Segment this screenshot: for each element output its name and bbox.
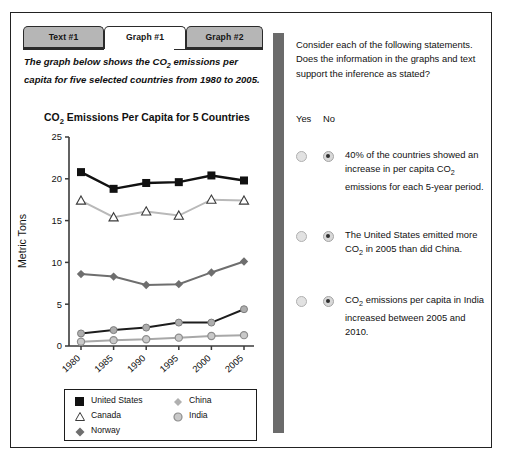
statement-text-3: CO2 emissions per capita in India increa…	[345, 293, 489, 339]
stimulus-intro-text: The graph below shows the CO2 emissions …	[24, 55, 268, 88]
data-point-marker	[175, 319, 182, 326]
data-point-marker	[77, 270, 85, 278]
data-point-marker	[109, 272, 117, 280]
data-point-marker	[240, 257, 248, 265]
chart-axes	[69, 137, 254, 346]
data-point-marker	[77, 168, 85, 176]
statement-1-part-b: emissions for each 5-year period.	[345, 181, 484, 192]
data-point-marker	[207, 268, 215, 276]
chart-svg: 0510152025 198019851990199520002005 Metr…	[11, 123, 273, 373]
data-point-marker	[110, 337, 117, 344]
data-point-marker	[143, 336, 150, 343]
y-tick-label: 0	[57, 340, 62, 351]
data-point-marker	[175, 334, 182, 341]
statement-text-2: The United States emitted more CO2 in 20…	[345, 228, 489, 260]
stimulus-pane: Text #1 Graph #1 Graph #2 The graph belo…	[11, 13, 273, 449]
chart-title-part-b: Emissions Per Capita for 5 Countries	[64, 112, 250, 123]
radio-no-statement-1[interactable]	[323, 151, 334, 162]
y-axis-ticks: 0510152025	[52, 131, 69, 351]
question-instructions: Consider each of the following statement…	[296, 38, 486, 81]
legend-label-india: India	[189, 410, 208, 420]
y-tick-label: 25	[52, 131, 62, 142]
series-line-united-states	[81, 172, 244, 189]
y-tick-label: 15	[52, 215, 62, 226]
exam-question-frame: Text #1 Graph #1 Graph #2 The graph belo…	[10, 12, 492, 448]
open-triangle-icon	[75, 412, 85, 420]
radio-yes-statement-2[interactable]	[296, 231, 307, 242]
statement-3-part-a: CO	[345, 294, 359, 305]
series-line-china	[81, 309, 244, 333]
tab-graph-1[interactable]: Graph #1	[104, 26, 186, 49]
radio-no-statement-3[interactable]	[323, 296, 334, 307]
data-point-marker	[110, 327, 117, 334]
tab-graph-2[interactable]: Graph #2	[186, 26, 263, 47]
x-tick-label: 2000	[190, 352, 213, 373]
chart-legend: United States Canada Norway	[64, 389, 257, 441]
tab-text-1[interactable]: Text #1	[23, 26, 104, 47]
intro-line2: capita for five selected countries from …	[24, 74, 260, 85]
chart-title-part-a: CO	[44, 112, 60, 123]
chart-series	[76, 168, 248, 345]
series-line-canada	[81, 200, 244, 218]
statement-text-1: 40% of the countries showed an increase …	[345, 148, 489, 194]
x-axis-ticks: 198019851990199520002005	[59, 346, 245, 373]
data-point-marker	[142, 281, 150, 289]
y-tick-label: 5	[57, 299, 62, 310]
statement-3-part-b: emissions per capita in India increased …	[345, 294, 484, 337]
legend-label-norway: Norway	[91, 425, 120, 435]
radio-yes-statement-1[interactable]	[296, 151, 307, 162]
no-column-label: No	[323, 113, 335, 124]
data-point-marker	[110, 185, 118, 193]
radio-yes-statement-3[interactable]	[296, 296, 307, 307]
data-point-marker	[142, 179, 150, 187]
y-axis-title: Metric Tons	[16, 214, 28, 268]
y-tick-label: 20	[52, 173, 62, 184]
intro-line1-part-b: emissions per	[171, 56, 238, 67]
yes-column-label: Yes	[296, 113, 311, 124]
filled-square-icon	[75, 397, 84, 406]
radio-no-statement-2[interactable]	[323, 231, 334, 242]
x-tick-label: 2005	[222, 352, 245, 373]
data-point-marker	[175, 280, 183, 288]
data-point-marker	[76, 196, 85, 204]
china-marker-icon	[173, 397, 182, 406]
data-point-marker	[78, 330, 85, 337]
statement-2-part-b: in 2005 than did China.	[363, 243, 462, 254]
filled-diamond-icon	[75, 427, 84, 436]
question-pane: Consider each of the following statement…	[292, 13, 493, 449]
x-tick-label: 1995	[157, 352, 180, 373]
data-point-marker	[207, 171, 215, 179]
x-tick-label: 1980	[59, 352, 82, 373]
data-point-marker	[208, 319, 215, 326]
data-point-marker	[241, 306, 248, 313]
statement-1-subscript: 2	[451, 168, 455, 177]
intro-line1-part-a: The graph below shows the CO	[24, 56, 167, 67]
y-tick-label: 10	[52, 257, 62, 268]
data-point-marker	[240, 176, 248, 184]
data-point-marker	[143, 324, 150, 331]
x-tick-label: 1990	[125, 352, 148, 373]
series-line-norway	[81, 262, 244, 285]
x-tick-label: 1985	[92, 352, 115, 373]
data-point-marker	[77, 338, 84, 345]
legend-label-china: China	[189, 395, 211, 405]
statement-1-part-a: 40% of the countries showed an increase …	[345, 149, 478, 174]
line-chart: 0510152025 198019851990199520002005 Metr…	[11, 123, 273, 373]
legend-label-united-states: United States	[91, 395, 143, 405]
india-marker-icon	[173, 412, 182, 421]
legend-label-canada: Canada	[91, 410, 121, 420]
pane-divider	[273, 33, 284, 433]
data-point-marker	[208, 332, 215, 339]
series-line-india	[81, 335, 244, 342]
data-point-marker	[175, 178, 183, 186]
data-point-marker	[240, 332, 247, 339]
